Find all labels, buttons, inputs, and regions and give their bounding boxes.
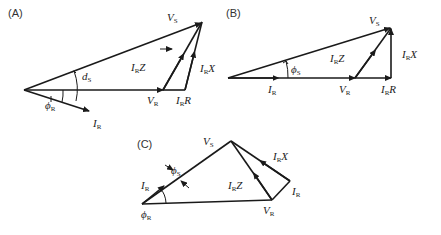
vs-label: VS (369, 14, 380, 28)
irr-label: IRR (175, 94, 191, 108)
irx-label: IRX (272, 150, 289, 164)
irz-label: IRZ (130, 61, 146, 75)
vs-phasor (142, 141, 231, 204)
irx-label: IRX (199, 62, 216, 76)
vr-label: VR (263, 204, 275, 218)
ir-label: IR (267, 83, 277, 97)
irr-label: IRR (380, 83, 396, 97)
vr-label: VR (339, 83, 351, 97)
panel-a: (A) VS IRZ IRX dS ϕR VR IRR IR (8, 7, 216, 131)
ir-left-label: IR (140, 179, 150, 193)
panel-c-label: (C) (137, 138, 152, 150)
vs-phasor (24, 23, 201, 90)
irz-phasor (163, 22, 202, 90)
panel-b-label: (B) (226, 7, 241, 19)
phir-label: ϕR (141, 208, 152, 222)
irx-label: IRX (401, 48, 418, 62)
vs-label: VS (167, 11, 178, 25)
phir-arc (62, 90, 63, 102)
phis-label: ϕS (171, 164, 181, 178)
vs-phasor (228, 28, 390, 78)
ir-label: IR (92, 117, 102, 131)
irz-label: IRZ (329, 52, 345, 66)
panel-c: (C) VS ϕS IRX IR IRZ IR ϕR VR (137, 135, 301, 222)
vs-label: VS (203, 135, 214, 149)
vr-phasor (142, 200, 272, 204)
vr-label: VR (147, 94, 159, 108)
panel-b: (B) VS ϕS IRZ IRX IR VR IRR (226, 7, 418, 97)
ir-phasor (24, 90, 89, 111)
ir-segment (272, 181, 290, 200)
ds-label: dS (82, 70, 92, 84)
panel-a-label: (A) (8, 7, 23, 19)
phir-label: ϕR (45, 99, 56, 113)
ir-right-label: IR (291, 185, 301, 199)
phasor-diagram: (A) VS IRZ IRX dS ϕR VR IRR IR (B) VS (0, 0, 441, 235)
phis-label: ϕS (291, 63, 301, 77)
irz-label: IRZ (227, 179, 243, 193)
ds-arc (74, 71, 77, 101)
